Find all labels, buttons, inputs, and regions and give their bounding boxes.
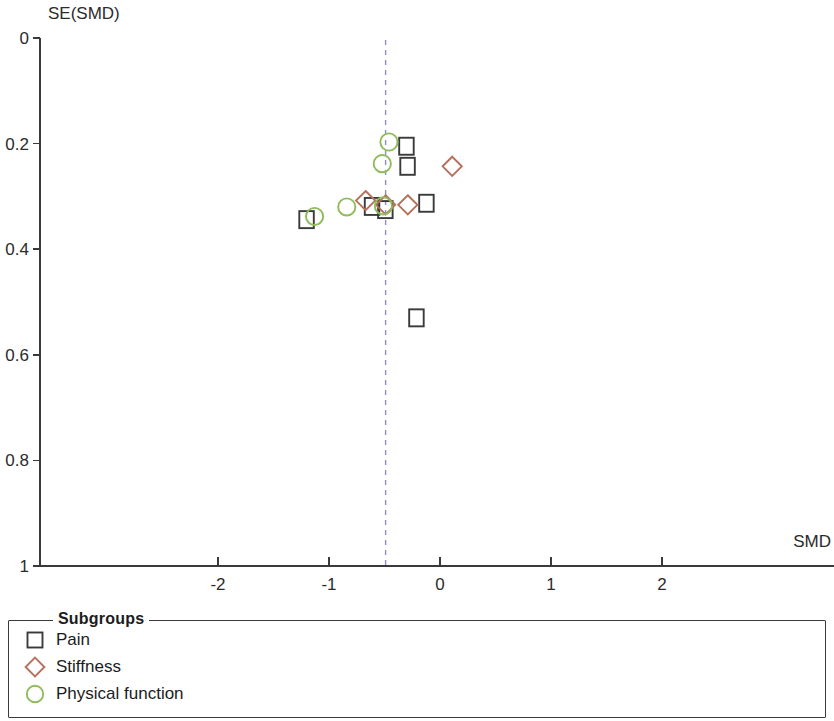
data-point-square xyxy=(419,195,434,212)
axis-titles-group: SE(SMD)SMD xyxy=(48,4,831,551)
legend-item-label: Physical function xyxy=(56,684,184,704)
x-axis-title: SMD xyxy=(793,532,831,551)
funnel-plot-root: 00.20.40.60.81-2-1012 SE(SMD)SMD Subgrou… xyxy=(0,0,834,721)
square-marker-icon xyxy=(23,628,47,652)
y-axis-tick-label: 0.2 xyxy=(5,135,29,154)
x-axis-tick-label: 2 xyxy=(657,575,666,594)
x-axis-tick-label: -2 xyxy=(210,575,225,594)
data-points-group xyxy=(299,133,462,326)
data-point-diamond xyxy=(398,195,417,214)
axis-tick-labels-group: 00.20.40.60.81-2-1012 xyxy=(5,29,666,594)
x-axis-tick-label: 1 xyxy=(546,575,555,594)
circle-marker-icon xyxy=(23,682,47,706)
y-axis-tick-label: 1 xyxy=(20,557,29,576)
y-axis-tick-label: 0.8 xyxy=(5,451,29,470)
legend-box: Subgroups Pain Stiffness Physical functi… xyxy=(8,620,826,718)
y-axis-tick-label: 0 xyxy=(20,29,29,48)
legend-item-pain[interactable]: Pain xyxy=(23,627,90,653)
y-axis-tick-label: 0.4 xyxy=(5,240,29,259)
diamond-marker-icon xyxy=(23,655,47,679)
legend-title: Subgroups xyxy=(53,610,149,628)
series-pain xyxy=(299,138,433,327)
axes-group xyxy=(40,38,834,566)
data-point-circle xyxy=(338,198,355,215)
legend-item-physical-function[interactable]: Physical function xyxy=(23,681,184,707)
legend-item-label: Pain xyxy=(56,630,90,650)
axis-ticks-group xyxy=(33,38,662,566)
x-axis-tick-label: -1 xyxy=(321,575,336,594)
data-point-square xyxy=(399,138,414,155)
data-point-circle xyxy=(374,155,391,172)
y-axis-title: SE(SMD) xyxy=(48,4,120,23)
data-point-square xyxy=(409,309,424,326)
data-point-square xyxy=(400,158,415,175)
y-axis-tick-label: 0.6 xyxy=(5,346,29,365)
data-point-circle xyxy=(380,133,397,150)
legend-item-stiffness[interactable]: Stiffness xyxy=(23,654,121,680)
data-point-diamond xyxy=(443,157,462,176)
x-axis-tick-label: 0 xyxy=(435,575,444,594)
legend-item-label: Stiffness xyxy=(56,657,121,677)
series-stiffness xyxy=(356,157,462,215)
